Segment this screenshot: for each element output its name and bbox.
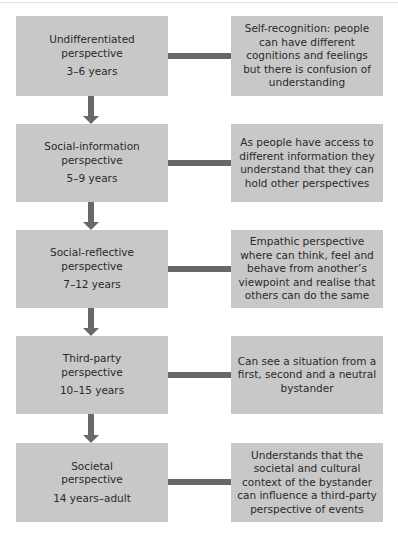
- connector-line: [168, 266, 231, 272]
- stage-box-social-reflective: Social-reflective perspective 7–12 years: [16, 230, 168, 308]
- stage-title: Societal: [71, 460, 113, 474]
- stage-title: Third-party: [63, 352, 121, 366]
- stage-description: Empathic perspective where can think, fe…: [237, 235, 377, 303]
- stage-description: As people have access to different infor…: [237, 136, 377, 190]
- down-arrow-icon: [83, 435, 99, 443]
- stage-age: 7–12 years: [63, 278, 121, 292]
- stage-description: Can see a situation from a first, second…: [237, 355, 377, 396]
- stage-age: 10–15 years: [60, 384, 124, 398]
- stage-title: perspective: [61, 47, 123, 61]
- description-box-societal: Understands that the societal and cultur…: [231, 443, 383, 522]
- description-box-third-party: Can see a situation from a first, second…: [231, 336, 383, 414]
- connector-line: [168, 372, 231, 378]
- stage-box-third-party: Third-party perspective 10–15 years: [16, 336, 168, 414]
- description-box-social-information: As people have access to different infor…: [231, 124, 383, 202]
- connector-line: [168, 160, 231, 166]
- stage-box-social-information: Social-information perspective 5–9 years: [16, 124, 168, 202]
- description-box-undifferentiated: Self-recognition: people can have differ…: [231, 16, 383, 96]
- connector-line: [168, 479, 231, 485]
- stage-description: Understands that the societal and cultur…: [237, 449, 377, 517]
- down-arrow-icon: [83, 328, 99, 336]
- down-arrow-icon: [83, 116, 99, 124]
- arrow-shaft: [88, 202, 94, 222]
- stage-title: Social-reflective: [50, 246, 134, 260]
- stage-title: perspective: [61, 366, 123, 380]
- arrow-shaft: [88, 414, 94, 435]
- down-arrow-icon: [83, 222, 99, 230]
- stage-title: perspective: [61, 154, 123, 168]
- stage-title: Social-information: [44, 140, 140, 154]
- arrow-shaft: [88, 96, 94, 116]
- stage-age: 14 years–adult: [53, 492, 131, 506]
- stage-age: 3–6 years: [67, 65, 118, 79]
- stage-box-undifferentiated: Undifferentiated perspective 3–6 years: [16, 16, 168, 96]
- stage-box-societal: Societal perspective 14 years–adult: [16, 443, 168, 522]
- description-box-social-reflective: Empathic perspective where can think, fe…: [231, 230, 383, 308]
- stage-description: Self-recognition: people can have differ…: [237, 22, 377, 90]
- stage-age: 5–9 years: [67, 172, 118, 186]
- top-rule: [0, 2, 398, 3]
- stage-title: perspective: [61, 260, 123, 274]
- arrow-shaft: [88, 308, 94, 328]
- connector-line: [168, 53, 231, 59]
- stage-title: perspective: [61, 473, 123, 487]
- stage-title: Undifferentiated: [49, 33, 135, 47]
